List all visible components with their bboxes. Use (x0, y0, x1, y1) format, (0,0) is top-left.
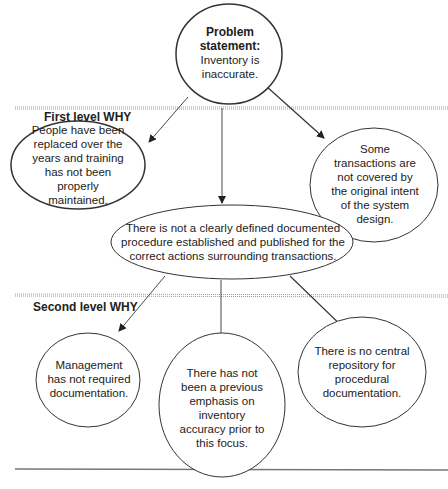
problem-heading: Problem statement: (191, 25, 269, 53)
transactions-text: Some transactions are not covered by the… (328, 142, 422, 226)
emphasis-text: There has not been a previous emphasis o… (177, 366, 267, 450)
repository-text: There is no central repository for proce… (312, 344, 412, 400)
node-emphasis: There has not been a previous emphasis o… (168, 360, 276, 456)
edge-problem-people (149, 97, 188, 142)
edge-problem-transactions (266, 86, 324, 138)
level-label-second: Second level WHY (33, 300, 138, 314)
procedure-text: There is not a clearly defined documente… (118, 221, 348, 263)
people-text: People have been replaced over the years… (26, 123, 130, 207)
node-repository: There is no central repository for proce… (312, 343, 412, 401)
problem-text: Inventory is inaccurate. (193, 53, 267, 81)
level-separator-2 (15, 294, 448, 297)
management-text: Management has not required documentatio… (46, 358, 132, 400)
node-people: People have been replaced over the years… (26, 129, 130, 201)
level-label-first: First level WHY (44, 110, 131, 124)
level-separator-1 (15, 107, 448, 109)
node-procedure: There is not a clearly defined documente… (118, 220, 348, 264)
node-transactions: Some transactions are not covered by the… (328, 140, 422, 228)
node-problem: Problem statement: Inventory is inaccura… (190, 16, 270, 90)
node-management: Management has not required documentatio… (46, 355, 132, 403)
